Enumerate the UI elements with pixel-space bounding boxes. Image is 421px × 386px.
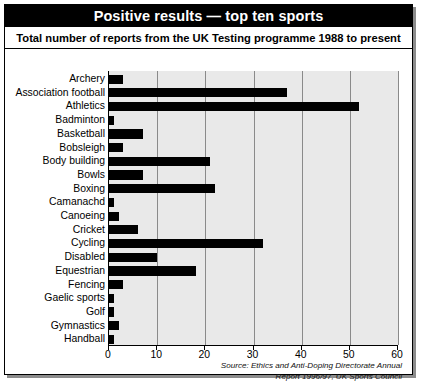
chart-title: Positive results — top ten sports bbox=[5, 5, 412, 27]
bar bbox=[109, 225, 138, 234]
chart-row: Cycling bbox=[109, 236, 398, 250]
category-label: Golf bbox=[86, 305, 105, 319]
bar bbox=[109, 294, 114, 303]
bar bbox=[109, 198, 114, 207]
category-label: Cycling bbox=[71, 236, 105, 250]
chart-row: Bobsleigh bbox=[109, 141, 398, 155]
x-axis-tick-label: 30 bbox=[247, 349, 259, 360]
bar bbox=[109, 129, 143, 138]
bar bbox=[109, 143, 123, 152]
category-label: Body building bbox=[43, 154, 105, 168]
chart-row: Golf bbox=[109, 305, 398, 319]
chart-row: Equestrian bbox=[109, 264, 398, 278]
chart-row: Gymnastics bbox=[109, 319, 398, 333]
chart-row: Cricket bbox=[109, 223, 398, 237]
plot-area: ArcheryAssociation footballAthleticsBadm… bbox=[108, 71, 398, 346]
category-label: Boxing bbox=[73, 182, 105, 196]
category-label: Gymnastics bbox=[51, 319, 105, 333]
source-note-line1: Source: Ethics and Anti-Doping Directora… bbox=[152, 361, 402, 372]
category-label: Athletics bbox=[66, 99, 105, 113]
category-label: Fencing bbox=[68, 278, 105, 292]
source-note: Source: Ethics and Anti-Doping Directora… bbox=[152, 361, 402, 383]
chart-row: Boxing bbox=[109, 182, 398, 196]
bar bbox=[109, 88, 287, 97]
category-label: Basketball bbox=[57, 127, 105, 141]
category-label: Disabled bbox=[65, 250, 105, 264]
chart-row: Gaelic sports bbox=[109, 291, 398, 305]
x-axis-tick-label: 10 bbox=[150, 349, 162, 360]
chart-row: Handball bbox=[109, 332, 398, 346]
category-label: Equestrian bbox=[55, 264, 105, 278]
x-axis-tick-label: 60 bbox=[391, 349, 403, 360]
bar bbox=[109, 184, 215, 193]
bar bbox=[109, 321, 119, 330]
x-axis-tick-label: 20 bbox=[199, 349, 211, 360]
bar bbox=[109, 157, 210, 166]
gridline bbox=[398, 71, 399, 345]
bar bbox=[109, 266, 196, 275]
chart-row: Disabled bbox=[109, 250, 398, 264]
x-axis-tick-label: 0 bbox=[105, 349, 111, 360]
chart-row: Badminton bbox=[109, 113, 398, 127]
category-label: Camanachd bbox=[49, 195, 105, 209]
source-note-line2: Report 1996/97, UK Sports Council bbox=[152, 372, 402, 383]
chart-row: Basketball bbox=[109, 127, 398, 141]
chart-frame: Positive results — top ten sports Total … bbox=[4, 4, 413, 375]
bar bbox=[109, 170, 143, 179]
category-label: Association football bbox=[15, 86, 105, 100]
bar bbox=[109, 307, 114, 316]
category-label: Handball bbox=[64, 332, 105, 346]
bar bbox=[109, 280, 123, 289]
category-label: Canoeing bbox=[61, 209, 106, 223]
chart-row: Fencing bbox=[109, 278, 398, 292]
category-label: Bowls bbox=[77, 168, 105, 182]
category-label: Bobsleigh bbox=[59, 141, 105, 155]
chart-row: Bowls bbox=[109, 168, 398, 182]
bar bbox=[109, 253, 157, 262]
chart-subtitle: Total number of reports from the UK Test… bbox=[5, 28, 412, 49]
plot-wrapper: ArcheryAssociation footballAthleticsBadm… bbox=[5, 50, 412, 374]
bar bbox=[109, 116, 114, 125]
category-label: Archery bbox=[69, 72, 105, 86]
category-label: Badminton bbox=[55, 113, 105, 127]
chart-row: Camanachd bbox=[109, 195, 398, 209]
x-axis-tick-label: 50 bbox=[343, 349, 355, 360]
category-label: Cricket bbox=[73, 223, 105, 237]
bar bbox=[109, 239, 263, 248]
bar bbox=[109, 102, 359, 111]
chart-row: Association football bbox=[109, 86, 398, 100]
category-label: Gaelic sports bbox=[44, 291, 105, 305]
chart-row: Body building bbox=[109, 154, 398, 168]
bar bbox=[109, 75, 123, 84]
chart-row: Athletics bbox=[109, 99, 398, 113]
bar bbox=[109, 212, 119, 221]
chart-row: Canoeing bbox=[109, 209, 398, 223]
x-axis: 0102030405060 bbox=[108, 346, 398, 362]
x-axis-tick-label: 40 bbox=[295, 349, 307, 360]
chart-title-bar: Positive results — top ten sports bbox=[5, 5, 412, 27]
chart-row: Archery bbox=[109, 72, 398, 86]
bar bbox=[109, 335, 114, 344]
